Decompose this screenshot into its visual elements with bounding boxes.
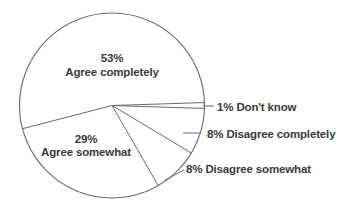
slice-name-disagree-completely: Disagree completely	[226, 128, 335, 140]
slice-pct-disagree-somewhat: 8%	[186, 163, 202, 175]
slice-label-dont-know: 1% Don't know	[217, 101, 296, 113]
slice-label-agree-somewhat: 29% Agree somewhat	[41, 132, 131, 159]
slice-label-disagree-somewhat: 8% Disagree somewhat	[186, 163, 311, 175]
slice-name-dont-know: Don't know	[236, 101, 296, 113]
slice-label-agree-completely: 53% Agree completely	[65, 52, 158, 79]
slice-name-agree-somewhat: Agree somewhat	[41, 146, 131, 160]
slice-pct-agree-completely: 53%	[65, 52, 158, 66]
slice-name-disagree-somewhat: Disagree somewhat	[205, 163, 310, 175]
slice-pct-dont-know: 1%	[217, 101, 233, 113]
pie-chart-figure: 53% Agree completely 29% Agree somewhat …	[0, 0, 342, 211]
slice-pct-agree-somewhat: 29%	[41, 132, 131, 146]
slice-pct-disagree-completely: 8%	[207, 128, 223, 140]
slice-name-agree-completely: Agree completely	[65, 65, 158, 79]
slice-label-disagree-completely: 8% Disagree completely	[207, 128, 335, 140]
